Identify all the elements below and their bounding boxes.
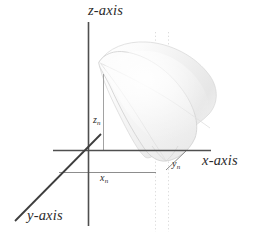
zn-label: zn	[93, 114, 101, 127]
x-axis-label: x-axis	[202, 152, 238, 169]
y-axis-label: y-axis	[27, 207, 63, 224]
xn-label: xn	[100, 172, 108, 185]
yn-label: yn	[172, 158, 180, 171]
zn-subscript: n	[97, 119, 101, 127]
z-axis-label: z-axis	[88, 2, 123, 19]
figure-3d-axes: z-axis x-axis y-axis zn xn yn	[0, 0, 253, 242]
xn-subscript: n	[105, 177, 109, 185]
figure-canvas	[0, 0, 253, 242]
yn-subscript: n	[177, 163, 181, 171]
surface-patch	[99, 42, 216, 161]
